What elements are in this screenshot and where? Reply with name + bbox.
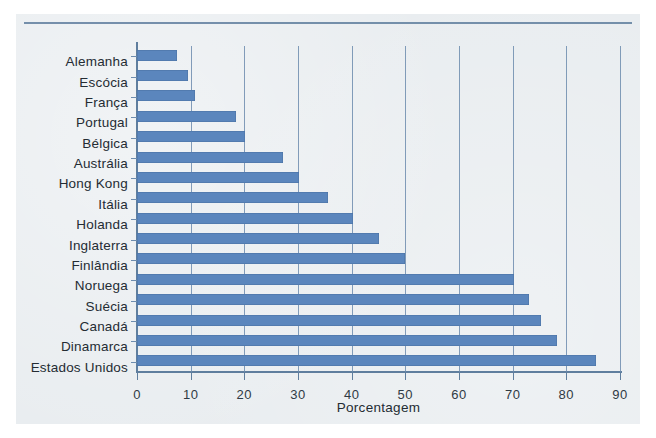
bar — [137, 192, 328, 203]
bar — [137, 50, 177, 61]
bar — [137, 253, 405, 264]
category-label: Austrália — [74, 156, 128, 171]
y-axis-tick — [131, 321, 137, 322]
bar-row: Austrália — [137, 148, 620, 168]
category-label: Suécia — [86, 299, 128, 314]
y-axis-tick — [131, 219, 137, 220]
x-axis-tick — [191, 372, 192, 380]
bar — [137, 172, 299, 183]
y-axis-tick — [131, 199, 137, 200]
bar — [137, 294, 529, 305]
top-rule-divider — [24, 22, 632, 24]
x-axis-tick — [566, 372, 567, 380]
x-axis-tick — [405, 372, 406, 380]
bar-row: Holanda — [137, 209, 620, 229]
category-label: Finlândia — [71, 258, 128, 273]
bar — [137, 152, 283, 163]
category-label: Portugal — [76, 115, 128, 130]
y-axis-tick — [131, 301, 137, 302]
plot-area: 0102030405060708090 AlemanhaEscóciaFranç… — [137, 46, 620, 372]
bar-row: Noruega — [137, 270, 620, 290]
bar-row: Finlândia — [137, 250, 620, 270]
bar — [137, 315, 541, 326]
y-axis-tick — [131, 280, 137, 281]
y-axis-tick — [131, 362, 137, 363]
bar — [137, 90, 195, 101]
gridline — [620, 46, 621, 372]
category-label: Holanda — [76, 217, 128, 232]
y-axis-tick — [131, 56, 137, 57]
bar-row: Inglaterra — [137, 229, 620, 249]
category-label: Hong Kong — [59, 176, 128, 191]
bar — [137, 233, 379, 244]
x-axis-tick — [298, 372, 299, 380]
category-label: Noruega — [75, 278, 128, 293]
category-label: França — [85, 95, 128, 110]
x-axis-tick — [513, 372, 514, 380]
category-label: Escócia — [79, 75, 128, 90]
chart-figure: 0102030405060708090 AlemanhaEscóciaFranç… — [0, 0, 656, 438]
bar — [137, 274, 514, 285]
category-label: Alemanha — [66, 54, 128, 69]
x-axis-tick — [459, 372, 460, 380]
y-axis-tick — [131, 97, 137, 98]
x-axis-tick — [352, 372, 353, 380]
y-axis-tick — [131, 77, 137, 78]
category-label: Bélgica — [82, 136, 128, 151]
category-label: Estados Unidos — [31, 360, 128, 375]
bar — [137, 111, 236, 122]
bar-row: Bélgica — [137, 128, 620, 148]
bar-row: Itália — [137, 189, 620, 209]
y-axis-tick — [131, 138, 137, 139]
y-axis-tick — [131, 240, 137, 241]
bar — [137, 335, 557, 346]
x-axis-tick — [244, 372, 245, 380]
y-axis-tick — [131, 341, 137, 342]
bar-row: Alemanha — [137, 46, 620, 66]
bar — [137, 213, 353, 224]
y-axis-tick — [131, 158, 137, 159]
category-label: Itália — [98, 197, 128, 212]
bar — [137, 355, 596, 366]
bar-row: Escócia — [137, 66, 620, 86]
bar — [137, 131, 245, 142]
category-label: Inglaterra — [69, 238, 128, 253]
bar-row: Canadá — [137, 311, 620, 331]
x-axis-tick — [620, 372, 621, 380]
bar-row: Dinamarca — [137, 331, 620, 351]
x-axis-tick — [137, 372, 138, 380]
bar-row: França — [137, 87, 620, 107]
bar-row: Hong Kong — [137, 168, 620, 188]
bar — [137, 70, 188, 81]
x-axis-label: Porcentagem — [137, 400, 620, 415]
y-axis-tick — [131, 178, 137, 179]
bar-row: Suécia — [137, 291, 620, 311]
category-label: Canadá — [80, 319, 129, 334]
bar-row: Portugal — [137, 107, 620, 127]
y-axis-tick — [131, 117, 137, 118]
category-label: Dinamarca — [61, 339, 128, 354]
y-axis-tick — [131, 260, 137, 261]
bar-row: Estados Unidos — [137, 352, 620, 372]
